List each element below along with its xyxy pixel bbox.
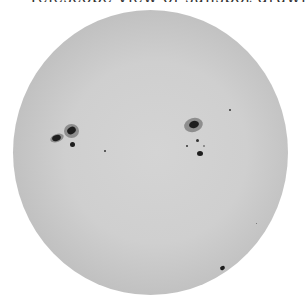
cropped-caption: Telescope view of sunspot drawing bbox=[0, 0, 305, 2]
sunspot bbox=[196, 139, 199, 142]
sunspot bbox=[197, 151, 203, 156]
sunspot bbox=[229, 109, 231, 111]
solar-disc bbox=[13, 10, 288, 295]
sunspot bbox=[70, 142, 75, 147]
sunspot bbox=[203, 145, 205, 147]
sunspot bbox=[186, 145, 188, 147]
sunspot bbox=[256, 223, 257, 224]
sunspot bbox=[104, 150, 106, 152]
